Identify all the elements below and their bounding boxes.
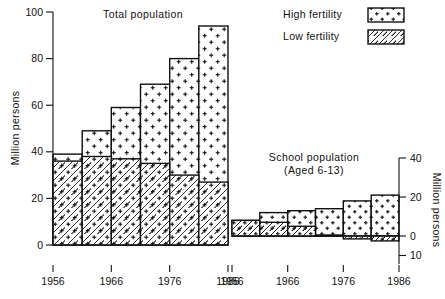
- right-y-tick-label: 20: [410, 191, 422, 203]
- chart-total-population: 020406080100 1956196619761986 Total popu…: [9, 6, 240, 287]
- legend-swatch-low-fertility: [368, 30, 404, 44]
- bar-low-fertility: [288, 226, 316, 236]
- chart-subtitle-school-population: (Aged 6-13): [284, 164, 344, 176]
- right-x-tick-label: 1976: [332, 275, 356, 287]
- bar-low-fertility: [199, 182, 228, 245]
- left-y-tick-label: 0: [37, 239, 43, 251]
- right-x-tick-label: 1956: [220, 275, 244, 287]
- right-x-axis-ticks: 1956196619761986: [220, 265, 411, 287]
- left-y-tick-label: 80: [31, 52, 43, 64]
- left-y-axis-title: Million persons: [9, 91, 21, 166]
- left-x-tick-label: 1976: [158, 275, 182, 287]
- bar-high-fertility: [316, 209, 344, 236]
- left-y-tick-label: 20: [31, 192, 43, 204]
- bar-low-fertility: [111, 159, 140, 245]
- bar-low-fertility: [232, 220, 260, 236]
- bar-low-fertility: [260, 222, 288, 236]
- left-x-axis-ticks: 1956196619761986: [41, 265, 240, 287]
- right-x-tick-label: 1986: [387, 275, 411, 287]
- left-y-tick-label: 60: [31, 99, 43, 111]
- right-y-axis-title: Million persons: [431, 173, 443, 248]
- bar-low-fertility: [371, 236, 399, 241]
- chart-school-population: 1002040 1956196619761986 School populati…: [220, 151, 443, 287]
- bar-low-fertility: [170, 175, 199, 245]
- bar-group-total-population: [53, 26, 228, 245]
- left-y-tick-label: 40: [31, 145, 43, 157]
- chart-title-school-population: School population: [269, 151, 359, 163]
- bar-low-fertility: [53, 161, 82, 245]
- chart-canvas: 020406080100 1956196619761986 Total popu…: [0, 0, 445, 299]
- chart-title-total-population: Total population: [103, 8, 183, 20]
- right-x-tick-label: 1966: [276, 275, 300, 287]
- left-y-tick-label: 100: [25, 6, 43, 18]
- bar-high-fertility: [343, 201, 371, 236]
- bar-high-fertility: [371, 195, 399, 236]
- right-y-tick-label: 40: [410, 152, 422, 164]
- legend-label-high-fertility: High fertility: [283, 8, 342, 20]
- figure-root: 020406080100 1956196619761986 Total popu…: [0, 0, 445, 299]
- legend-swatch-high-fertility: [368, 8, 404, 22]
- bar-low-fertility: [82, 157, 111, 246]
- legend: High fertility Low fertility: [283, 8, 404, 44]
- right-y-tick-label: 10: [410, 249, 422, 261]
- left-x-tick-label: 1966: [100, 275, 124, 287]
- bar-group-school-population: [232, 195, 399, 241]
- left-x-tick-label: 1956: [41, 275, 65, 287]
- bar-low-fertility: [141, 163, 170, 245]
- legend-label-low-fertility: Low fertility: [283, 30, 340, 42]
- right-y-tick-label: 0: [410, 230, 416, 242]
